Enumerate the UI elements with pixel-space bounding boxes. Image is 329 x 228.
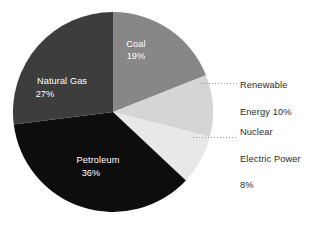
callout-label-nuclear-electric-power: Nuclear Electric Power 8% <box>240 113 301 205</box>
slice-label-coal-name: Coal <box>126 39 145 49</box>
leader-line-nuclear-electric-power <box>193 137 238 138</box>
callout-nuclear-line3: 8% <box>240 179 301 192</box>
callout-renewable-line1: Renewable <box>240 79 292 92</box>
pie-chart: Coal 19% Natural Gas 27% Petroleum 36% R… <box>0 0 329 228</box>
leader-line-renewable-energy <box>200 83 238 84</box>
slice-label-petroleum-value: 36% <box>82 168 101 178</box>
callout-nuclear-line1: Nuclear <box>240 126 301 139</box>
slice-label-natural-gas-value: 27% <box>36 89 55 99</box>
callout-nuclear-line2: Electric Power <box>240 153 301 166</box>
slice-label-natural-gas-name: Natural Gas <box>37 76 87 86</box>
slice-label-coal-value: 19% <box>127 51 146 61</box>
slice-label-petroleum-name: Petroleum <box>77 155 120 165</box>
pie-slice-natural-gas[interactable] <box>13 12 113 125</box>
